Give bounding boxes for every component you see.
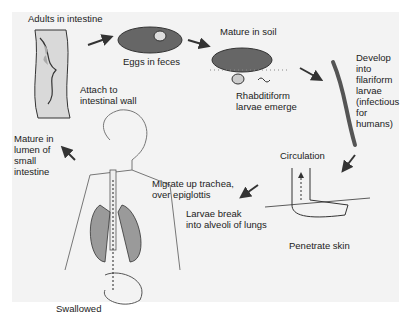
label-filariform-larvae: Develop into filariform larvae (infectio…	[356, 52, 399, 129]
soil-icon	[210, 48, 290, 84]
filariform-larva-icon	[333, 62, 355, 145]
stomach-icon	[104, 273, 142, 304]
feces-with-eggs-icon	[118, 27, 182, 53]
cycle-arrows	[65, 38, 355, 195]
label-mature-in-lumen: Mature in lumen of small intestine	[14, 133, 54, 177]
label-swallowed: Swallowed	[56, 303, 101, 314]
label-attach-to-intestinal-wall: Attach to intestinal wall	[80, 84, 137, 106]
left-lung-icon	[90, 205, 110, 262]
life-cycle-illustration	[0, 0, 413, 327]
label-eggs-in-feces: Eggs in feces	[123, 56, 180, 67]
label-circulation: Circulation	[280, 150, 325, 161]
label-migrate-up-trachea: Migrate up trachea, over epiglottis	[152, 178, 234, 200]
label-rhabditiform-larvae: Rhabditiform larvae emerge	[236, 90, 297, 112]
label-mature-in-soil: Mature in soil	[220, 26, 277, 37]
label-adults-in-intestine: Adults in intestine	[28, 13, 102, 24]
human-body-icon	[65, 110, 180, 304]
foot-icon	[265, 168, 370, 217]
right-lung-icon	[118, 205, 141, 262]
label-penetrate-skin: Penetrate skin	[289, 240, 350, 251]
label-larvae-break-into-alveoli: Larvae break into alveoli of lungs	[186, 208, 267, 230]
intestine-icon	[35, 30, 70, 118]
